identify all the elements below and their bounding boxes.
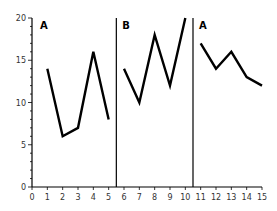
phase-label: A [40,20,48,31]
x-tick-label: 13 [226,193,236,202]
x-tick-label: 12 [211,193,221,202]
x-tick-label: 5 [106,193,111,202]
phase-lines [116,18,193,187]
x-tick-label: 6 [121,193,126,202]
phase-label: B [122,20,130,31]
y-tick-label: 0 [21,183,26,192]
y-tick-label: 20 [16,14,26,23]
x-tick-label: 1 [45,193,50,202]
phase-label: A [199,20,207,31]
x-tick-label: 15 [257,193,267,202]
x-tick-label: 2 [60,193,65,202]
series-line-a [47,52,108,137]
axes: 051015200123456789101112131415 [16,14,267,202]
x-tick-label: 14 [242,193,252,202]
x-tick-label: 10 [180,193,190,202]
x-tick-label: 3 [75,193,80,202]
x-tick-label: 7 [137,193,142,202]
abab-line-chart: 051015200123456789101112131415 ABA [0,0,277,211]
series-line-b [124,18,185,103]
data-series: ABA [40,18,262,136]
series-line-a [201,43,262,85]
y-tick-label: 15 [16,56,26,65]
x-tick-label: 0 [29,193,34,202]
y-tick-label: 10 [16,99,26,108]
x-tick-label: 8 [152,193,157,202]
x-tick-label: 9 [167,193,172,202]
x-tick-label: 11 [196,193,206,202]
y-tick-label: 5 [21,141,26,150]
x-tick-label: 4 [91,193,96,202]
